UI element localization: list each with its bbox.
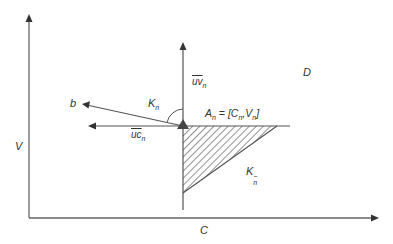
b-vector xyxy=(82,101,183,126)
an-eq: = [C xyxy=(216,107,238,119)
b-arrow-icon xyxy=(82,101,90,108)
c-axis xyxy=(29,215,379,222)
diagram-canvas xyxy=(0,0,393,244)
kn-minus-sub: n xyxy=(253,180,257,186)
an-end: ] xyxy=(256,107,259,119)
uc-arrow-icon xyxy=(88,123,96,130)
uc-vector-label: ucn xyxy=(131,130,145,142)
v-axis-arrow-icon xyxy=(26,14,33,22)
point-an-marker-icon xyxy=(177,119,189,129)
uc-base: uc xyxy=(131,129,142,140)
kn-label: Kn xyxy=(148,98,159,111)
c-axis-label: C xyxy=(200,225,208,236)
uv-sub: n xyxy=(203,82,207,89)
v-axis xyxy=(26,14,33,218)
an-mid: ,V xyxy=(242,107,252,119)
kn-minus-label: K−n xyxy=(246,166,257,187)
point-an-formula: An = [Cn,Vn] xyxy=(205,108,259,121)
uv-arrow-icon xyxy=(180,42,187,50)
kn-sub: n xyxy=(155,104,159,111)
v-axis-label: V xyxy=(15,141,22,152)
kn-minus-base: K xyxy=(246,165,253,177)
an-lhs: A xyxy=(205,107,212,119)
region-d-label: D xyxy=(303,67,311,78)
uc-sub: n xyxy=(142,135,146,142)
uv-vector-label: uvn xyxy=(192,77,206,89)
uv-base: uv xyxy=(192,76,203,87)
c-axis-arrow-icon xyxy=(371,215,379,222)
b-vector-label: b xyxy=(70,98,76,109)
kn-angle-arc xyxy=(167,109,183,123)
